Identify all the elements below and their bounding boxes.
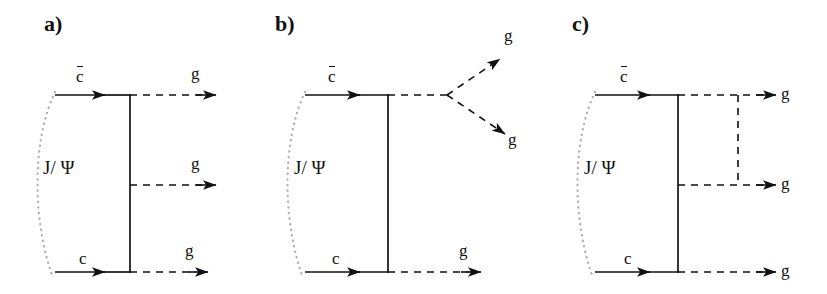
bound-state-label-b: J/ Ψ [294, 158, 325, 177]
quark-label-b: c [332, 250, 340, 267]
diagram-a-graphics [0, 0, 280, 294]
quark-label-c: c [624, 250, 632, 267]
quark-label-a: c [79, 250, 87, 267]
gluon-label-b-3: g [459, 242, 468, 259]
antiquark-label-c: c [620, 66, 628, 85]
panel-label-a: a) [44, 13, 62, 35]
gluon-label-a-1: g [191, 65, 200, 82]
diagram-panel-a: a) c c J/ Ψ g g g [0, 0, 280, 294]
bound-state-label-a: J/ Ψ [43, 158, 74, 177]
gluon-label-b-2: g [508, 131, 517, 148]
diagram-c-graphics [550, 0, 827, 294]
gluon-label-a-2: g [191, 155, 200, 172]
gluon-line-b-upper [447, 59, 500, 95]
figure-canvas: a) c c J/ Ψ g g g [0, 0, 827, 294]
diagram-panel-b: b) c c J/ Ψ g g g [255, 0, 555, 294]
antiquark-label-a: c [76, 66, 84, 85]
bound-state-arc-icon [287, 92, 305, 278]
gluon-label-a-3: g [185, 242, 194, 259]
gluon-line-b-lower [447, 95, 505, 134]
panel-label-c: c) [572, 13, 589, 35]
bound-state-arc-icon [577, 92, 595, 278]
bound-state-arc-icon [37, 92, 55, 278]
antiquark-label-b: c [328, 66, 336, 85]
bound-state-label-c: J/ Ψ [584, 158, 615, 177]
gluon-label-c-2: g [781, 175, 790, 192]
panel-label-b: b) [275, 13, 295, 35]
gluon-label-c-3: g [781, 262, 790, 279]
gluon-label-c-1: g [781, 85, 790, 102]
diagram-panel-c: c) c c J/ Ψ g g g [550, 0, 827, 294]
gluon-label-b-1: g [504, 27, 513, 44]
